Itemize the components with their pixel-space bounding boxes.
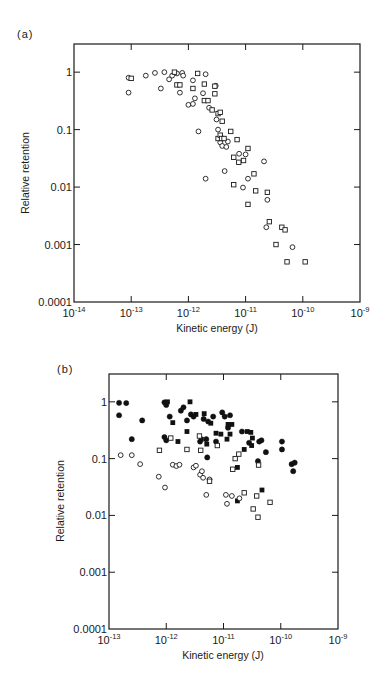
data-point xyxy=(204,492,209,497)
axis-labels-b: 10-1310-1210-1110-1010-910.10.010.0010.0… xyxy=(73,396,347,646)
data-point xyxy=(194,463,199,468)
data-point xyxy=(251,507,255,511)
data-point xyxy=(205,455,210,460)
chart-panel-a: 10-1410-1310-1210-1110-1010-910.10.010.0… xyxy=(0,0,390,340)
chart-panel-b: 10-1310-1210-1110-1010-910.10.010.0010.0… xyxy=(0,340,390,674)
data-point xyxy=(177,462,182,467)
data-point xyxy=(165,399,170,404)
data-point xyxy=(124,400,129,405)
data-point xyxy=(229,129,233,133)
data-point xyxy=(213,84,217,88)
x-axis-title-a: Kinetic energy (J) xyxy=(176,322,258,334)
data-point xyxy=(229,494,234,499)
data-point xyxy=(263,450,268,455)
data-point xyxy=(285,260,289,264)
data-point xyxy=(118,453,123,458)
data-point xyxy=(170,420,175,425)
data-point xyxy=(229,422,234,427)
data-point xyxy=(225,437,230,442)
x-tick-label: 10-13 xyxy=(120,305,143,319)
data-point xyxy=(184,418,189,423)
data-point xyxy=(200,469,205,474)
data-points-a xyxy=(126,70,307,264)
x-tick-label: 10-9 xyxy=(329,632,348,646)
data-point xyxy=(116,413,121,418)
data-point xyxy=(222,136,226,140)
data-point xyxy=(140,418,145,423)
y-tick-label: 0.001 xyxy=(44,239,72,251)
data-point xyxy=(129,453,134,458)
data-point xyxy=(267,219,271,223)
data-point xyxy=(191,78,196,83)
data-point xyxy=(176,439,181,444)
data-point xyxy=(164,438,169,443)
data-point xyxy=(178,83,182,87)
data-point xyxy=(216,127,221,132)
data-point xyxy=(224,145,229,150)
y-tick-label: 0.0001 xyxy=(38,296,72,308)
data-point xyxy=(237,496,242,501)
data-point xyxy=(195,71,199,75)
data-point xyxy=(222,414,227,419)
data-point xyxy=(202,411,207,416)
data-point xyxy=(260,488,265,493)
data-point xyxy=(207,479,211,483)
data-point xyxy=(246,202,250,206)
data-point xyxy=(220,119,224,123)
data-point xyxy=(246,146,250,150)
data-point xyxy=(138,462,143,467)
data-point xyxy=(279,447,284,452)
y-tick-label: 0.0001 xyxy=(73,623,107,635)
data-point xyxy=(196,129,201,134)
data-point xyxy=(237,160,241,164)
data-point xyxy=(185,429,190,434)
data-point xyxy=(204,437,209,442)
data-point xyxy=(235,465,240,470)
data-point xyxy=(157,448,161,452)
data-point xyxy=(181,73,186,78)
data-point xyxy=(203,176,208,181)
x-tick-label: 10-12 xyxy=(177,305,200,319)
data-points-b xyxy=(116,399,297,519)
x-tick-label: 10-10 xyxy=(269,632,292,646)
data-point xyxy=(177,90,182,95)
data-point xyxy=(201,91,206,96)
y-axis-title-a: Relative retention xyxy=(19,132,31,214)
data-point xyxy=(279,439,284,444)
data-point xyxy=(129,437,134,442)
data-point xyxy=(162,70,167,75)
data-point xyxy=(153,71,158,76)
data-point xyxy=(218,110,222,114)
data-point xyxy=(206,98,210,102)
axis-labels-a: 10-1410-1310-1210-1110-1010-910.10.010.0… xyxy=(38,66,369,319)
data-point xyxy=(262,159,267,164)
data-point xyxy=(239,429,244,434)
x-tick-label: 10-11 xyxy=(212,632,235,646)
data-point xyxy=(211,414,216,419)
data-point xyxy=(215,443,219,447)
data-point xyxy=(237,151,242,156)
data-point xyxy=(156,474,161,479)
data-point xyxy=(254,494,258,498)
data-point xyxy=(253,189,257,193)
data-point xyxy=(256,463,260,467)
data-point xyxy=(243,152,248,157)
x-tick-label: 10-12 xyxy=(155,632,178,646)
data-point xyxy=(268,500,272,504)
data-point xyxy=(203,72,208,77)
data-point xyxy=(250,436,255,441)
data-point xyxy=(232,182,236,186)
data-point xyxy=(235,137,239,141)
y-tick-label: 1 xyxy=(101,396,107,408)
plot-frame-a xyxy=(74,44,360,302)
y-tick-label: 1 xyxy=(66,66,72,78)
data-point xyxy=(264,225,269,230)
data-point xyxy=(249,443,254,448)
y-axis-title-b: Relative retention xyxy=(54,460,66,542)
x-axis-title-b: Kinetic energy (J) xyxy=(182,649,264,661)
data-point xyxy=(191,102,196,107)
data-point xyxy=(291,469,296,474)
data-point xyxy=(241,158,245,162)
data-point xyxy=(242,491,246,495)
data-point xyxy=(246,176,251,181)
